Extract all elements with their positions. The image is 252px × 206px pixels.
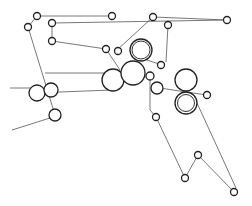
web-path-line	[52, 41, 106, 49]
small-roller-icon	[150, 14, 157, 21]
small-roller-icon	[146, 72, 154, 80]
web-path-line	[197, 103, 236, 188]
small-roller-icon	[165, 22, 172, 29]
rollers	[25, 13, 238, 196]
small-roller-icon	[182, 175, 189, 182]
large-roller-icon	[121, 61, 145, 85]
small-roller-icon	[49, 20, 56, 27]
small-roller-icon	[231, 189, 238, 196]
small-roller-icon	[109, 13, 116, 20]
large-roller-icon	[151, 82, 163, 94]
small-roller-icon	[34, 13, 41, 20]
small-roller-icon	[25, 24, 32, 31]
web-path-line	[166, 25, 168, 62]
double-roller-icon	[175, 92, 197, 114]
large-roller-icon	[175, 69, 197, 91]
large-roller-icon	[44, 83, 58, 97]
web-paths	[10, 16, 236, 192]
small-roller-icon	[49, 38, 56, 45]
small-roller-icon	[153, 114, 160, 121]
small-roller-icon	[204, 92, 211, 99]
small-roller-icon	[115, 48, 122, 55]
web-path-line	[52, 20, 227, 23]
small-roller-icon	[158, 62, 165, 69]
large-roller-icon	[49, 109, 61, 121]
large-roller-icon	[29, 85, 45, 101]
small-roller-icon	[224, 17, 231, 24]
roller-diagram	[0, 0, 252, 206]
web-path-line	[12, 118, 50, 130]
web-path-line	[51, 90, 112, 92]
double-roller-icon	[130, 39, 152, 61]
diagram-svg	[0, 0, 252, 206]
small-roller-icon	[195, 152, 202, 159]
small-roller-icon	[103, 46, 110, 53]
